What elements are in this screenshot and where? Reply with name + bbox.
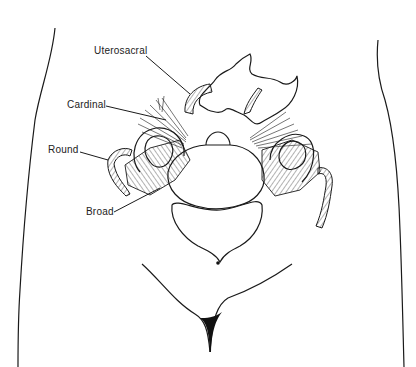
leader-broad xyxy=(114,188,160,212)
leader-cardinal xyxy=(106,106,166,120)
sigmoid-colon xyxy=(199,54,297,124)
body-outline-right xyxy=(377,40,404,367)
vulva-outline xyxy=(142,264,210,352)
cardinal-fibers-right xyxy=(250,112,312,148)
bladder xyxy=(172,202,262,262)
label-round: Round xyxy=(48,144,78,155)
label-uterosacral: Uterosacral xyxy=(94,45,147,56)
vulva-fill xyxy=(200,312,222,352)
vulva-outline-right xyxy=(210,264,292,352)
label-broad: Broad xyxy=(86,206,114,217)
round-ligament-right xyxy=(316,168,332,228)
anatomy-illustration xyxy=(0,0,416,367)
uterosacral-ligament-right xyxy=(244,88,262,114)
body-outline-left xyxy=(18,28,55,367)
label-cardinal: Cardinal xyxy=(67,99,106,110)
urethral-tip xyxy=(216,261,220,265)
leader-round xyxy=(80,152,108,160)
cervix xyxy=(206,132,230,145)
leader-uterosacral xyxy=(146,56,190,94)
